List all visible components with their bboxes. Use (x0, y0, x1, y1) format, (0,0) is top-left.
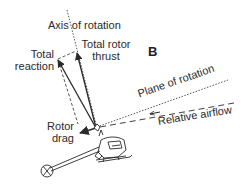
rotor-drag-label-line1: Rotor (36, 120, 74, 132)
total-rotor-thrust-label-line2: thrust (78, 50, 134, 62)
total-reaction-label-line1: Total (8, 48, 54, 60)
total-reaction-arrow (58, 60, 96, 128)
panel-label: B (148, 44, 157, 59)
total-reaction-label: Total reaction (8, 48, 54, 72)
rotor-drag-arrow (80, 128, 96, 133)
total-rotor-thrust-arrow (77, 53, 96, 128)
rotor-drag-label-line2: drag (36, 132, 74, 144)
resolution-dashed-top (58, 51, 76, 59)
resolution-dashed-side (58, 60, 78, 124)
total-rotor-thrust-label-line1: Total rotor (78, 38, 134, 50)
axis-of-rotation-label: Axis of rotation (48, 19, 121, 31)
total-rotor-thrust-label: Total rotor thrust (78, 38, 134, 62)
rotor-force-diagram (0, 0, 249, 184)
rotor-drag-label: Rotor drag (36, 120, 74, 144)
total-reaction-label-line2: reaction (8, 60, 54, 72)
